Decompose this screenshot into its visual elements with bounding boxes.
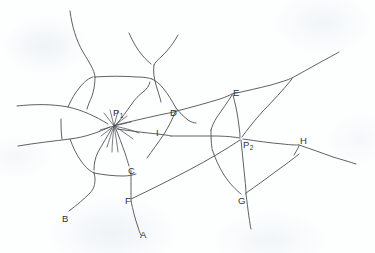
edge-h-down-to-g-branch [294, 146, 299, 155]
edge-e-down-right [233, 95, 240, 137]
edge-p2-cell-left-rib [211, 130, 212, 148]
edge-d-to-e [177, 94, 232, 111]
label-P1: P1 [113, 108, 123, 119]
edge-top-branch-left [70, 11, 95, 77]
label-C: C [128, 166, 135, 176]
label-E: E [233, 88, 239, 98]
edge-f-to-p2-diagonal [131, 140, 240, 199]
label-P1-text: P [113, 107, 119, 118]
network-diagram-figure: P1 P2 A B C D E F G H I [0, 0, 375, 253]
edge-b-to-cell [69, 172, 95, 211]
edge-e-to-upperright [232, 78, 292, 94]
edge-top-branch-left-lower [87, 77, 95, 109]
edge-left-lower-in [18, 127, 110, 146]
edge-i-to-p2 [171, 136, 240, 138]
edge-e-down-left [211, 95, 232, 130]
label-H: H [300, 136, 307, 146]
edge-top-branch-right [154, 35, 178, 65]
label-P1-subscript: 1 [120, 112, 124, 119]
edge-upper-crossbar [95, 76, 152, 79]
edge-g-to-left-cell [212, 149, 241, 194]
label-P2-text: P [243, 139, 249, 150]
label-D: D [170, 108, 177, 118]
edge-g-to-right-up [246, 154, 299, 193]
label-G: G [238, 196, 245, 206]
label-F: F [125, 196, 131, 206]
label-B: B [62, 214, 68, 224]
edge-p1-up-right-wavy [115, 82, 150, 126]
edge-upperright-to-p2 [242, 79, 292, 137]
edge-left-vertical-rib [61, 119, 62, 139]
edge-top-right-rise [129, 33, 151, 64]
label-P2: P2 [243, 140, 253, 151]
edge-g-down [246, 194, 251, 229]
network-line-drawing [0, 0, 375, 253]
edge-h-to-right-edge [299, 145, 356, 164]
edge-upperright-to-corner [292, 52, 339, 78]
label-A: A [140, 230, 146, 240]
label-I: I [156, 128, 159, 138]
label-P2-subscript: 2 [250, 144, 254, 151]
edge-left-upper-in [17, 105, 108, 124]
edge-top-branch-right-down [154, 65, 161, 102]
edge-left-cell-bottom [70, 139, 94, 173]
